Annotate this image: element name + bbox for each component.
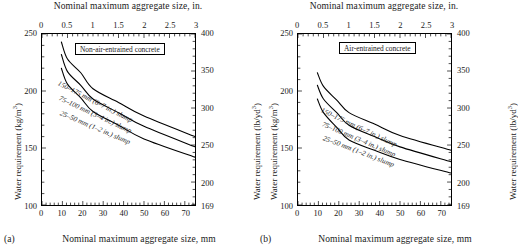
top-tick-a-2: 1	[91, 20, 95, 30]
top-axis-title-a: Nominal maximum aggregate size, in.	[0, 1, 256, 11]
left-tick-b-1: 200	[280, 86, 293, 96]
left-tick-a-3: 100	[24, 201, 37, 211]
top-tick-b-6: 3	[450, 20, 454, 30]
top-tick-b-3: 1.5	[369, 20, 380, 30]
bottom-tick-a-5: 50	[140, 208, 149, 218]
plot-area-a: Non-air-entrained concrete 150–175 mm (6…	[41, 33, 196, 206]
bottom-tick-b-1: 10	[313, 208, 322, 218]
bottom-tick-b-2: 20	[334, 208, 343, 218]
left-tick-b-0: 250	[280, 28, 293, 38]
left-axis-title-tail-b: )	[269, 103, 279, 106]
right-tick-b-1: 350	[457, 65, 470, 75]
legend-box-b: Air-entrained concrete	[339, 42, 416, 54]
right-axis-title-b: Water requirement (lb/yd3)	[506, 103, 518, 200]
bottom-axis-title-b: Nominal maximum aggregate size, mm	[282, 234, 508, 244]
bottom-tick-b-0: 0	[295, 208, 299, 218]
left-tick-b-3: 100	[280, 201, 293, 211]
right-tick-a-2: 300	[201, 103, 214, 113]
panel-a: Nominal maximum aggregate size, in. Wate…	[0, 0, 256, 246]
top-tick-b-0: 0	[295, 20, 299, 30]
bottom-tick-a-7: 70	[181, 208, 190, 218]
left-axis-title-a: Water requirement (kg/m3)	[11, 103, 23, 200]
bottom-tick-b-6: 60	[417, 208, 426, 218]
top-tick-a-5: 2.5	[165, 20, 176, 30]
top-tick-b-2: 1	[347, 20, 351, 30]
right-tick-a-1: 350	[201, 65, 214, 75]
left-tick-a-0: 250	[24, 28, 37, 38]
left-axis-unit-exp-a: 3	[11, 106, 18, 109]
right-tick-a-5: 169	[201, 201, 214, 211]
bottom-tick-b-7: 70	[437, 208, 446, 218]
top-tick-a-0: 0	[39, 20, 43, 30]
right-tick-b-3: 250	[457, 140, 470, 150]
top-axis-title-b: Nominal maximum aggregate size, in.	[256, 1, 512, 11]
left-axis-title-text-a: Water requirement (kg/m	[13, 109, 23, 200]
bottom-tick-a-6: 60	[161, 208, 170, 218]
top-tick-b-5: 2.5	[421, 20, 432, 30]
right-tick-b-5: 169	[457, 201, 470, 211]
right-axis-unit-exp-b: 3	[506, 106, 513, 109]
right-axis-title-tail-b: )	[508, 103, 518, 106]
bottom-tick-a-0: 0	[39, 208, 43, 218]
left-tick-a-2: 150	[24, 143, 37, 153]
left-tick-a-1: 200	[24, 86, 37, 96]
bottom-tick-b-5: 50	[396, 208, 405, 218]
bottom-axis-title-a: Nominal maximum aggregate size, mm	[26, 234, 252, 244]
plot-area-b: Air-entrained concrete 150–175 mm (6–7 i…	[297, 33, 452, 206]
bottom-tick-b-4: 40	[375, 208, 384, 218]
panel-b: Nominal maximum aggregate size, in. Wate…	[256, 0, 512, 246]
left-axis-unit-exp-b: 3	[267, 106, 274, 109]
right-tick-a-4: 200	[201, 178, 214, 188]
panel-tag-b: (b)	[260, 234, 271, 244]
bottom-tick-a-2: 20	[78, 208, 87, 218]
tick-marks-b	[298, 34, 451, 205]
right-axis-title-text-b: Water requirement (lb/yd	[508, 109, 518, 200]
bottom-tick-b-3: 30	[355, 208, 364, 218]
bottom-tick-a-1: 10	[57, 208, 66, 218]
panel-tag-a: (a)	[4, 234, 15, 244]
right-tick-b-0: 400	[457, 28, 470, 38]
top-tick-a-4: 2	[142, 20, 146, 30]
bottom-tick-a-4: 40	[119, 208, 128, 218]
left-axis-title-b: Water requirement (kg/m3)	[267, 103, 279, 200]
left-tick-b-2: 150	[280, 143, 293, 153]
top-tick-b-4: 2	[398, 20, 402, 30]
top-tick-a-3: 1.5	[113, 20, 124, 30]
left-axis-title-text-b: Water requirement (kg/m	[269, 109, 279, 200]
plot-svg-b	[298, 34, 451, 205]
right-tick-a-3: 250	[201, 140, 214, 150]
legend-box-a: Non-air-entrained concrete	[75, 43, 165, 55]
top-tick-a-6: 3	[194, 20, 198, 30]
right-tick-a-0: 400	[201, 28, 214, 38]
top-tick-b-1: 0.5	[318, 20, 329, 30]
right-tick-b-4: 200	[457, 178, 470, 188]
bottom-tick-a-3: 30	[99, 208, 108, 218]
left-axis-title-tail-a: )	[13, 103, 23, 106]
right-tick-b-2: 300	[457, 103, 470, 113]
top-tick-a-1: 0.5	[62, 20, 73, 30]
